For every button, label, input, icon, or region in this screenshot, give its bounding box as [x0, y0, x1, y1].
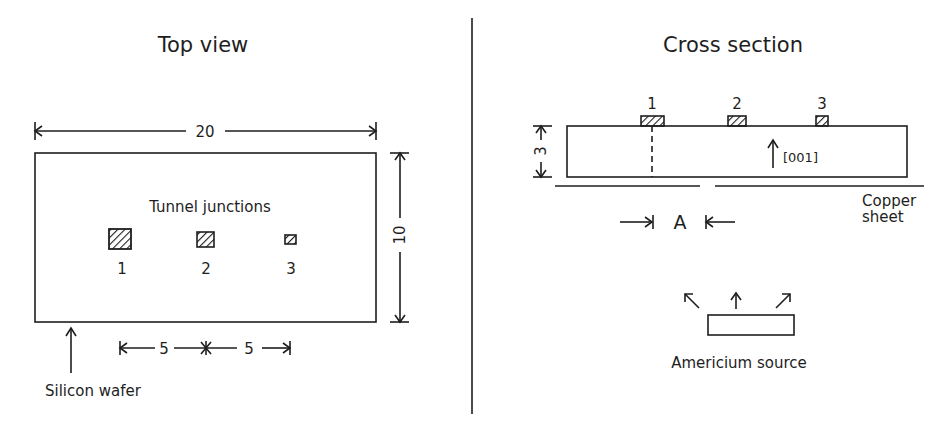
orientation-arrow-icon: [768, 140, 778, 168]
arrow-up-right-icon: [776, 294, 790, 308]
emission-arrows: [685, 293, 790, 309]
spacing-label-1: 5: [159, 340, 169, 358]
pad-3: [816, 116, 828, 126]
height-dimension: 10: [390, 153, 409, 322]
cross-section-panel: Cross section 1 2 3 [001] 3 Copper sh: [532, 33, 924, 372]
silicon-wafer-label: Silicon wafer: [45, 382, 142, 400]
thickness-dimension: 3: [532, 126, 552, 177]
top-view-title: Top view: [157, 33, 248, 57]
copper-sheet-label-line2: sheet: [862, 208, 904, 226]
spacing-dimension: 5 5: [120, 340, 290, 358]
junction-2-label: 2: [201, 260, 211, 278]
height-label: 10: [391, 225, 409, 244]
cross-section-title: Cross section: [663, 33, 803, 57]
aperture-dimension: A: [620, 211, 735, 233]
orientation-label: [001]: [783, 150, 818, 165]
junction-2-square: [197, 232, 214, 247]
pad-2: [728, 116, 746, 126]
pad-2-label: 2: [732, 95, 742, 113]
width-dimension: 20: [35, 122, 376, 141]
arrow-up-icon: [731, 293, 741, 309]
junction-3-label: 3: [286, 260, 296, 278]
americium-source-label: Americium source: [671, 354, 807, 372]
thickness-label: 3: [532, 146, 550, 156]
junction-1-square: [109, 229, 131, 249]
silicon-wafer-section: [567, 126, 907, 177]
wafer-pointer-arrow-icon: [66, 328, 76, 373]
pad-3-label: 3: [817, 95, 827, 113]
pad-1: [641, 116, 664, 126]
width-label: 20: [195, 123, 214, 141]
arrow-up-left-icon: [685, 294, 699, 308]
tunnel-junctions-label: Tunnel junctions: [148, 198, 271, 216]
aperture-label: A: [674, 211, 687, 233]
junction-1-label: 1: [117, 260, 127, 278]
diagram-canvas: Top view 20 10 Tunnel junctions: [0, 0, 951, 436]
spacing-label-2: 5: [244, 340, 254, 358]
americium-source: [708, 315, 794, 335]
top-view-panel: Top view 20 10 Tunnel junctions: [35, 33, 409, 400]
pad-1-label: 1: [647, 95, 657, 113]
junction-3-square: [285, 235, 296, 244]
